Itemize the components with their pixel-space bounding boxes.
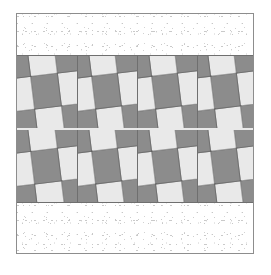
top-stipple-band [17, 14, 253, 55]
patch-cell [237, 70, 253, 106]
patch-cell [179, 145, 198, 181]
patch-cell [63, 103, 78, 128]
patch-cell [241, 103, 253, 128]
lower-patch-stripe [17, 130, 253, 203]
patch-cell [123, 103, 138, 128]
patch-cell [183, 103, 198, 128]
nine-patch-block-7 [138, 130, 198, 203]
patch-cell [31, 73, 62, 109]
patch-cell [63, 178, 78, 203]
patch-cell [31, 148, 62, 184]
nine-patch-block-5 [17, 130, 78, 203]
patch-cell [241, 178, 253, 203]
nine-patch-block-1 [17, 55, 78, 128]
patch-cell [233, 130, 253, 149]
quilt-image-canvas [0, 0, 271, 275]
patch-cell [119, 70, 138, 106]
patch-cell [179, 70, 198, 106]
nine-patch-block-8 [198, 130, 253, 203]
quilt-frame [16, 13, 254, 254]
patch-cell [58, 145, 78, 181]
patch-cell [123, 178, 138, 203]
patch-cell [237, 145, 253, 181]
patch-cell [211, 74, 240, 110]
nine-patch-block-2 [78, 55, 138, 128]
patch-cell [233, 55, 253, 74]
patch-cell [119, 145, 138, 181]
nine-patch-block-6 [78, 130, 138, 203]
patch-cell [58, 70, 78, 106]
nine-patch-block-3 [138, 55, 198, 128]
upper-patch-stripe [17, 55, 253, 128]
patch-cell [183, 178, 198, 203]
nine-patch-block-4 [198, 55, 253, 128]
stripe-top-seam [17, 55, 253, 56]
patch-cell [211, 149, 240, 185]
bottom-stipple-band [17, 203, 253, 253]
